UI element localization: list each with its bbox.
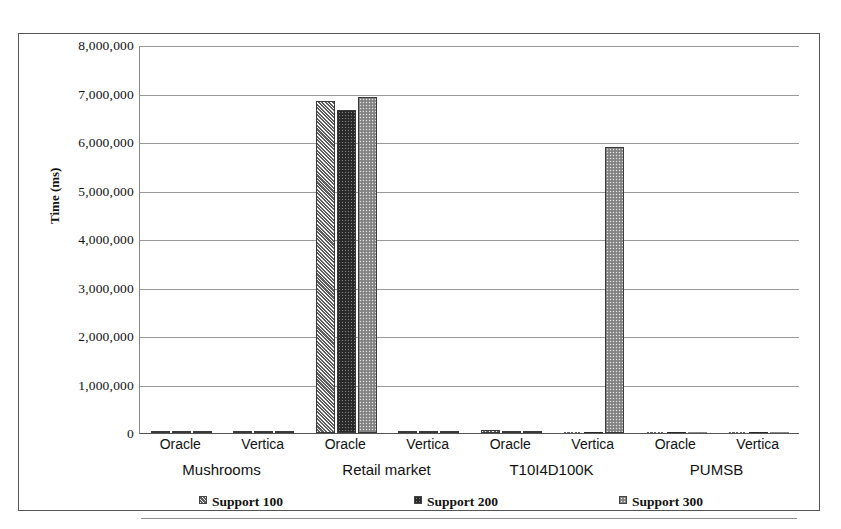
legend-label: Support 100 — [212, 494, 283, 510]
x-group-label: T10I4D100K — [469, 461, 634, 478]
bar — [440, 431, 459, 433]
bar — [605, 147, 624, 433]
bar-group — [305, 46, 388, 433]
bar — [233, 431, 252, 433]
y-tick-label: 7,000,000 — [24, 87, 134, 103]
chart-legend: Support 100Support 200Support 300 — [139, 494, 799, 520]
bar — [667, 432, 686, 433]
x-sub-label: Oracle — [469, 436, 552, 452]
plot-area — [139, 46, 799, 434]
legend-item: Support 300 — [619, 494, 703, 510]
bar — [419, 431, 438, 433]
y-tick-label: 8,000,000 — [24, 38, 134, 54]
y-tick-label: 2,000,000 — [24, 329, 134, 345]
x-group-label: PUMSB — [634, 461, 799, 478]
bar-group — [223, 46, 306, 433]
x-group-label: Mushrooms — [139, 461, 304, 478]
bar — [254, 431, 273, 433]
legend-label: Support 200 — [427, 494, 498, 510]
legend-swatch-icon — [199, 496, 207, 504]
bar — [523, 431, 542, 433]
bar — [563, 432, 582, 433]
bars-layer — [140, 46, 799, 433]
bar-group — [635, 46, 718, 433]
bar-group — [140, 46, 223, 433]
bar — [275, 431, 294, 433]
y-tick-label: 5,000,000 — [24, 184, 134, 200]
bar — [481, 430, 500, 433]
legend-divider — [141, 518, 797, 519]
legend-label: Support 300 — [632, 494, 703, 510]
bar — [728, 432, 747, 433]
bar — [337, 110, 356, 433]
x-axis-labels: OracleVerticaOracleVerticaOracleVerticaO… — [139, 436, 799, 488]
x-sub-label: Oracle — [304, 436, 387, 452]
bar — [151, 431, 170, 433]
y-axis-ticks: 8,000,0007,000,0006,000,0005,000,0004,00… — [19, 46, 134, 434]
y-tick-label: 1,000,000 — [24, 378, 134, 394]
legend-swatch-icon — [619, 496, 627, 504]
bar — [172, 431, 191, 433]
x-sub-label: Vertica — [552, 436, 635, 452]
x-sub-label: Vertica — [222, 436, 305, 452]
y-tick-label: 3,000,000 — [24, 281, 134, 297]
bar — [358, 97, 377, 433]
x-group-label: Retail market — [304, 461, 469, 478]
chart-screenshot: Time (ms) 8,000,0007,000,0006,000,0005,0… — [0, 0, 841, 529]
y-tick-label: 6,000,000 — [24, 135, 134, 151]
x-sub-label: Oracle — [634, 436, 717, 452]
bar — [193, 431, 212, 433]
bar-group — [388, 46, 471, 433]
bar — [398, 431, 417, 433]
bar — [770, 432, 789, 433]
y-tick-label: 4,000,000 — [24, 232, 134, 248]
chart-frame: Time (ms) 8,000,0007,000,0006,000,0005,0… — [18, 33, 820, 511]
bar-group — [553, 46, 636, 433]
bar — [316, 101, 335, 433]
x-sub-label: Vertica — [387, 436, 470, 452]
y-tick-label: 0 — [24, 426, 134, 442]
bar-group — [718, 46, 801, 433]
x-sub-label: Vertica — [717, 436, 800, 452]
legend-item: Support 100 — [199, 494, 283, 510]
bar — [688, 432, 707, 433]
bar — [749, 432, 768, 433]
bar — [502, 431, 521, 433]
bar — [646, 432, 665, 433]
bar-group — [470, 46, 553, 433]
x-sub-label: Oracle — [139, 436, 222, 452]
legend-swatch-icon — [414, 496, 422, 504]
bar — [584, 432, 603, 433]
legend-item: Support 200 — [414, 494, 498, 510]
